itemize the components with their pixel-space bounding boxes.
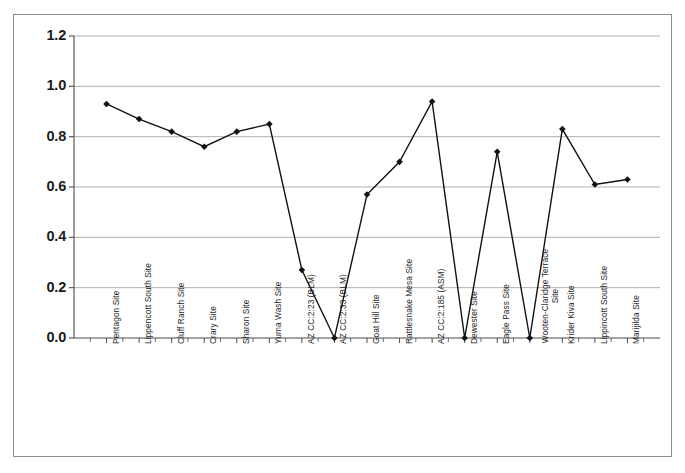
x-axis-tick-label: AZ CC:2:185 (ASM) (436, 269, 446, 344)
data-point-marker (136, 116, 143, 123)
data-point-marker (461, 335, 468, 342)
x-axis-tick-label: Lippincott South Site (599, 266, 609, 344)
x-axis-tick-label: Crary Site (208, 306, 218, 344)
y-axis-tick-label: 0.4 (26, 228, 66, 244)
data-point-marker (494, 148, 501, 155)
data-point-marker (266, 121, 273, 128)
x-axis-tick-label: Yuma Wash Site (273, 282, 283, 344)
x-axis-tick-label: AZ CC:2:23 (BLM) (306, 274, 316, 344)
x-axis-tick-label: Cluff Ranch Site (176, 283, 186, 344)
x-axis-tick-label: AZ CC:2:33 (BLM) (338, 274, 348, 344)
x-axis-tick-label: Rattlesnake Mesa Site (404, 259, 414, 344)
y-axis-ticks-group (69, 36, 74, 338)
data-point-marker (299, 267, 306, 274)
data-point-marker (526, 335, 533, 342)
x-axis-tick-label: Pentagon Site (111, 291, 121, 344)
x-axis-tick-label: Goat Hill Site (371, 294, 381, 344)
x-axis-tick-label: Marijilda Site (631, 295, 641, 344)
y-axis-tick-label: 1.2 (26, 27, 66, 43)
x-axis-tick-label: Krider Kiva Site (566, 285, 576, 344)
y-axis-tick-label: 0.8 (26, 128, 66, 144)
y-axis-tick-label: 0.6 (26, 178, 66, 194)
x-axis-tick-label: Dewester Site (469, 291, 479, 344)
data-point-marker (103, 101, 110, 108)
x-axis-tick-label: Lippencott South Site (143, 263, 153, 344)
x-axis-ticks-group (90, 338, 643, 343)
data-point-marker (201, 143, 208, 150)
y-axis-tick-label: 0.2 (26, 279, 66, 295)
figure-root: 0.00.20.40.60.81.01.2 Pentagon SiteLippe… (0, 0, 685, 473)
line-chart-canvas (0, 0, 685, 473)
data-point-marker (559, 126, 566, 133)
data-point-marker (429, 98, 436, 105)
data-point-marker (331, 335, 338, 342)
data-point-marker (233, 128, 240, 135)
data-point-marker (624, 176, 631, 183)
x-axis-tick-label: Wooten-Claridge Terrace Site (540, 248, 560, 344)
x-axis-tick-label: Sharon Site (241, 300, 251, 344)
gridlines-group (74, 36, 660, 288)
y-axis-tick-label: 1.0 (26, 77, 66, 93)
x-axis-tick-label: Eagle Pass Site (501, 284, 511, 344)
data-point-marker (168, 128, 175, 135)
y-axis-tick-label: 0.0 (26, 329, 66, 345)
